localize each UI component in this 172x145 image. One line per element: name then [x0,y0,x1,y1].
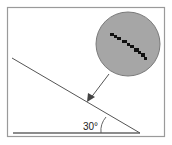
angle-label: 30° [83,121,98,132]
incline-diagram: 30° [0,0,172,145]
